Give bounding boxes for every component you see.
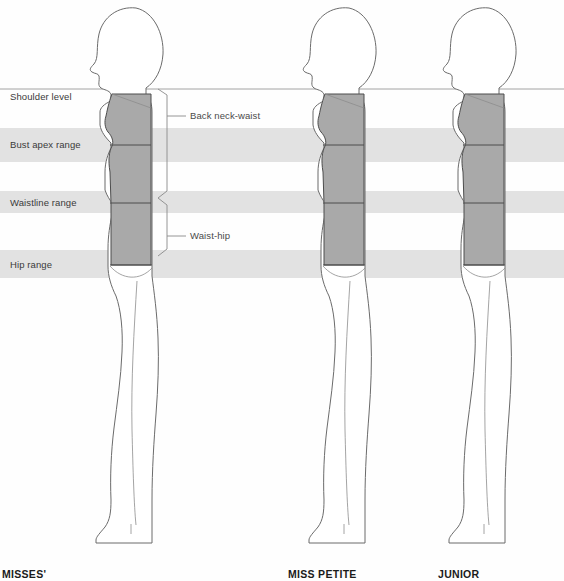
body-measurement-diagram: Shoulder level Bust apex range Waistline… [0,0,564,581]
label-back-neck-waist: Back neck-waist [190,110,260,121]
caption-misses: MISSES' [2,568,46,580]
caption-miss-petite: MISS PETITE [288,568,357,580]
junior-torso-shaded [458,94,504,265]
label-hip-range: Hip range [10,259,52,270]
label-shoulder-level: Shoulder level [10,91,72,102]
misses-torso-shaded [105,94,151,265]
label-bust-apex-range: Bust apex range [10,139,81,150]
caption-junior: JUNIOR [438,568,480,580]
label-waistline-range: Waistline range [10,197,77,208]
petite-torso-shaded [318,94,364,265]
label-waist-hip: Waist-hip [190,230,230,241]
diagram-canvas: Shoulder level Bust apex range Waistline… [0,0,564,581]
